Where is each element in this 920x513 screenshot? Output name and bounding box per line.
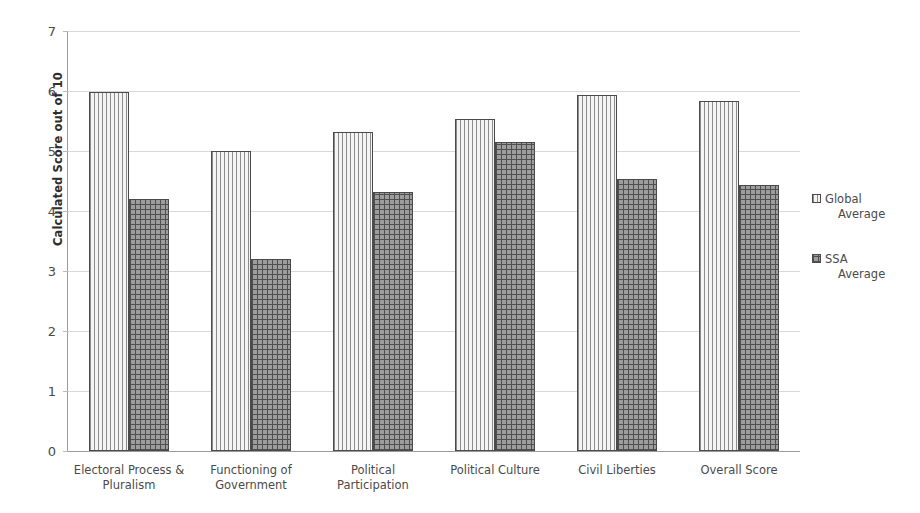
legend-item-ssa[interactable]: SSA Average: [812, 252, 916, 282]
x-tick-label-line: Participation: [298, 478, 448, 493]
y-tick-label: 2: [34, 325, 56, 338]
y-tick-label: 6: [34, 85, 56, 98]
x-axis-line: [67, 451, 800, 452]
bar-global: [333, 132, 373, 451]
y-tick-label: 3: [34, 265, 56, 278]
y-tick-label: 4: [34, 205, 56, 218]
bar-global: [211, 151, 251, 451]
bar-global: [699, 101, 739, 451]
legend-swatch-ssa-icon: [812, 254, 821, 263]
bar-chart: Calculated Score out of 10 01234567 Elec…: [0, 0, 920, 513]
legend: Global Average SSA Average: [812, 192, 916, 312]
bar-global: [89, 92, 129, 451]
y-axis-title: Calculated Score out of 10: [51, 29, 65, 289]
y-tick-label: 7: [34, 25, 56, 38]
legend-swatch-global-icon: [812, 194, 821, 203]
bar-ssa: [739, 185, 779, 451]
bar-ssa: [617, 179, 657, 451]
bar-ssa: [251, 259, 291, 451]
bar-global: [577, 95, 617, 451]
y-tick-label: 5: [34, 145, 56, 158]
legend-label-ssa: SSA Average: [825, 252, 916, 282]
x-tick-label: Overall Score: [664, 463, 814, 478]
bar-ssa: [495, 142, 535, 451]
y-tick-label: 0: [34, 445, 56, 458]
bar-ssa: [129, 199, 169, 451]
bar-global: [455, 119, 495, 451]
x-tick-label-line: Overall Score: [664, 463, 814, 478]
bar-ssa: [373, 192, 413, 451]
y-tick-label: 1: [34, 385, 56, 398]
plot-area: [68, 31, 800, 451]
legend-label-global: Global Average: [825, 192, 916, 222]
legend-item-global[interactable]: Global Average: [812, 192, 916, 222]
y-tick-mark: [63, 451, 68, 452]
